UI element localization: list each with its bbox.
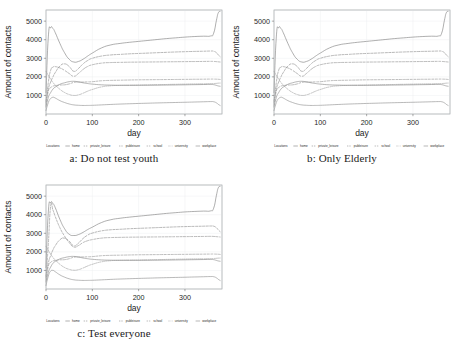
plot-c: 100020003000400050000100200300dayAmount …	[0, 177, 228, 329]
legend-label-private_leisure: private_leisure	[90, 319, 110, 323]
svg-text:200: 200	[361, 118, 373, 127]
svg-text:0: 0	[272, 118, 276, 127]
svg-text:100: 100	[86, 293, 98, 302]
svg-text:300: 300	[179, 293, 191, 302]
plot-b: 100020003000400050000100200300dayAmount …	[228, 2, 456, 154]
chart-legend: Locationshomeprivate_leisurepubleisuresc…	[46, 319, 216, 323]
panel-caption-b: b: Only Elderly	[228, 152, 456, 164]
svg-text:200: 200	[133, 118, 145, 127]
panel-a: 100020003000400050000100200300dayAmount …	[0, 2, 228, 177]
svg-text:4000: 4000	[26, 210, 42, 219]
svg-text:5000: 5000	[26, 192, 42, 201]
chart-svg-b: 100020003000400050000100200300dayAmount …	[228, 2, 456, 154]
panel-caption-c: c: Test everyone	[0, 327, 228, 339]
svg-text:1000: 1000	[254, 91, 270, 100]
svg-text:300: 300	[179, 118, 191, 127]
legend-label-university: university	[403, 144, 417, 148]
svg-text:100: 100	[86, 118, 98, 127]
svg-text:Locations: Locations	[274, 144, 288, 148]
svg-text:0: 0	[44, 293, 48, 302]
svg-text:0: 0	[44, 118, 48, 127]
panel-c: 100020003000400050000100200300dayAmount …	[0, 177, 228, 352]
svg-text:3000: 3000	[26, 54, 42, 63]
legend-label-publeisure: publeisure	[126, 144, 141, 148]
legend-label-school: school	[153, 319, 162, 323]
svg-text:5000: 5000	[254, 17, 270, 26]
svg-text:4000: 4000	[26, 35, 42, 44]
legend-label-workplace: workplace	[202, 144, 216, 148]
legend-label-home: home	[300, 144, 308, 148]
panel-b: 100020003000400050000100200300dayAmount …	[228, 2, 456, 177]
figure-container: 100020003000400050000100200300dayAmount …	[0, 0, 457, 364]
svg-text:Amount of contacts: Amount of contacts	[3, 201, 13, 274]
legend-label-private_leisure: private_leisure	[318, 144, 338, 148]
legend-label-school: school	[381, 144, 390, 148]
chart-legend: Locationshomeprivate_leisurepubleisuresc…	[274, 144, 444, 148]
svg-text:2000: 2000	[26, 247, 42, 256]
svg-text:3000: 3000	[26, 229, 42, 238]
legend-label-university: university	[175, 319, 189, 323]
legend-label-university: university	[175, 144, 189, 148]
legend-label-workplace: workplace	[202, 319, 216, 323]
svg-text:Locations: Locations	[46, 144, 60, 148]
svg-text:4000: 4000	[254, 35, 270, 44]
svg-text:1000: 1000	[26, 91, 42, 100]
svg-text:Locations: Locations	[46, 319, 60, 323]
panel-caption-a: a: Do not test youth	[0, 152, 228, 164]
svg-text:200: 200	[133, 293, 145, 302]
legend-label-private_leisure: private_leisure	[90, 144, 110, 148]
svg-text:Amount of contacts: Amount of contacts	[3, 26, 13, 99]
svg-text:300: 300	[407, 118, 419, 127]
legend-label-workplace: workplace	[430, 144, 444, 148]
legend-label-home: home	[72, 144, 80, 148]
legend-label-school: school	[153, 144, 162, 148]
svg-text:3000: 3000	[254, 54, 270, 63]
svg-text:100: 100	[314, 118, 326, 127]
svg-text:Amount of contacts: Amount of contacts	[231, 26, 241, 99]
plot-a: 100020003000400050000100200300dayAmount …	[0, 2, 228, 154]
chart-legend: Locationshomeprivate_leisurepubleisuresc…	[46, 144, 216, 148]
chart-svg-c: 100020003000400050000100200300dayAmount …	[0, 177, 228, 329]
svg-text:1000: 1000	[26, 266, 42, 275]
svg-text:5000: 5000	[26, 17, 42, 26]
svg-text:2000: 2000	[26, 72, 42, 81]
chart-svg-a: 100020003000400050000100200300dayAmount …	[0, 2, 228, 154]
svg-text:day: day	[127, 128, 141, 138]
legend-label-publeisure: publeisure	[126, 319, 141, 323]
svg-text:day: day	[127, 303, 141, 313]
svg-text:2000: 2000	[254, 72, 270, 81]
legend-label-home: home	[72, 319, 80, 323]
svg-text:day: day	[355, 128, 369, 138]
legend-label-publeisure: publeisure	[354, 144, 369, 148]
